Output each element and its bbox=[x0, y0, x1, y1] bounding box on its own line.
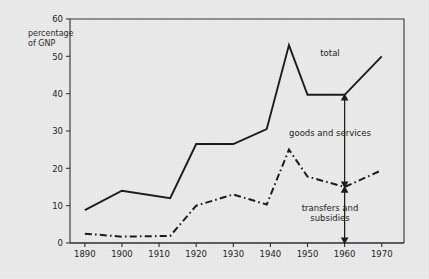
x-axis-tick-label: 1970 bbox=[371, 249, 393, 259]
gnp-percentage-line-chart: 0102030405060 18901900191019201930194019… bbox=[0, 0, 429, 279]
y-axis-tick-label: 50 bbox=[52, 52, 63, 62]
annotation-label-transfers-line2: subsidies bbox=[310, 213, 350, 223]
x-axis-tick-label: 1910 bbox=[148, 249, 170, 259]
x-axis-tick-label: 1890 bbox=[74, 249, 96, 259]
y-axis-tick-label: 10 bbox=[52, 201, 63, 211]
annotation-label-goods-and-services: goods and services bbox=[289, 128, 371, 138]
y-axis-tick-label: 30 bbox=[52, 126, 63, 136]
x-axis-tick-label: 1930 bbox=[222, 249, 244, 259]
x-axis: 189019001910192019301940195019601970 bbox=[70, 243, 404, 259]
y-axis-tick-label: 20 bbox=[52, 164, 63, 174]
x-axis-tick-label: 1900 bbox=[111, 249, 133, 259]
x-axis-tick-label: 1960 bbox=[334, 249, 356, 259]
y-axis: 0102030405060 bbox=[52, 14, 70, 248]
annotation-label-total: total bbox=[320, 48, 339, 58]
x-axis-tick-label: 1940 bbox=[260, 249, 282, 259]
y-axis-tick-label: 60 bbox=[52, 14, 63, 24]
y-axis-title-line2: of GNP bbox=[28, 39, 55, 48]
series-line-transfers-and-subsidies bbox=[85, 150, 382, 237]
x-axis-tick-label: 1950 bbox=[297, 249, 319, 259]
arrow-goods-and-services bbox=[342, 95, 348, 187]
y-axis-tick-label: 40 bbox=[52, 89, 63, 99]
x-axis-tick-label: 1920 bbox=[185, 249, 207, 259]
y-axis-tick-label: 0 bbox=[58, 238, 63, 248]
y-axis-title-line1: percentage bbox=[28, 29, 74, 38]
annotation-label-transfers-line1: transfers and bbox=[302, 203, 359, 213]
chart-canvas: 0102030405060 18901900191019201930194019… bbox=[0, 0, 429, 279]
y-axis-title: percentage of GNP bbox=[28, 29, 74, 48]
